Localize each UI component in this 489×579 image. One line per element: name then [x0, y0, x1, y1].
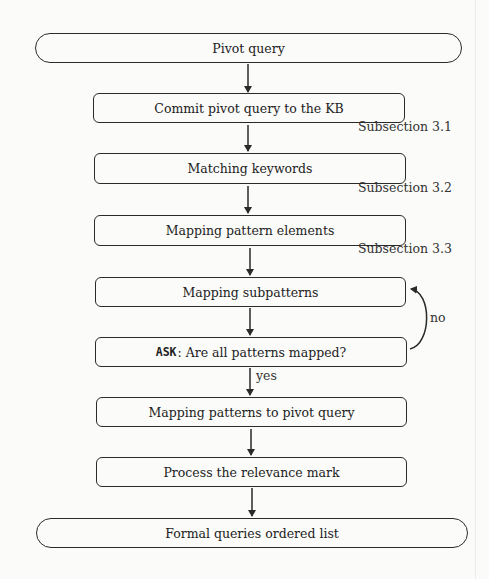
- annotation-subsection-3-3: Subsection 3.3: [358, 241, 452, 256]
- node-label: Pivot query: [212, 41, 284, 56]
- annotation-subsection-3-1: Subsection 3.1: [358, 119, 452, 134]
- edge-label-yes: yes: [256, 368, 277, 383]
- node-label: Process the relevance mark: [163, 465, 339, 480]
- node-label: Mapping patterns to pivot query: [148, 405, 354, 420]
- node-pivot-query: Pivot query: [35, 33, 462, 63]
- node-label: : Are all patterns mapped?: [178, 345, 347, 360]
- node-label: Mapping pattern elements: [166, 223, 335, 238]
- flowchart: Pivot query Commit pivot query to the KB…: [0, 0, 489, 579]
- node-formal-queries-ordered-list: Formal queries ordered list: [36, 518, 468, 548]
- node-label: Formal queries ordered list: [165, 526, 339, 541]
- node-mapping-subpatterns: Mapping subpatterns: [95, 277, 406, 307]
- ask-keyword: ASK: [156, 345, 177, 359]
- node-process-relevance-mark: Process the relevance mark: [96, 457, 407, 487]
- annotation-subsection-3-2: Subsection 3.2: [358, 180, 452, 195]
- edge-label-no: no: [430, 310, 446, 325]
- node-label: Mapping subpatterns: [182, 285, 318, 300]
- node-label: Commit pivot query to the KB: [154, 101, 343, 116]
- loop-arrow-no: [410, 289, 427, 349]
- node-ask-all-patterns-mapped: ASK: Are all patterns mapped?: [95, 337, 407, 367]
- node-label: Matching keywords: [188, 161, 313, 176]
- node-mapping-patterns-to-pivot-query: Mapping patterns to pivot query: [96, 397, 407, 427]
